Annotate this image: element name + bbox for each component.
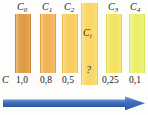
bar-top-label-c0: C0 bbox=[17, 1, 27, 12]
bar-value-label-c4: 0,1 bbox=[129, 75, 141, 85]
arrow-right-icon bbox=[3, 96, 145, 112]
bar-top-label-c1: C1 bbox=[42, 1, 52, 12]
bar-value-label-c2: 0,5 bbox=[62, 75, 74, 85]
bar-sheen bbox=[63, 14, 77, 73]
axis-symbol-c: C bbox=[2, 74, 9, 85]
bar-c2 bbox=[62, 14, 78, 73]
bar-inner-label-ci: Ci bbox=[83, 27, 92, 38]
bar-c3 bbox=[106, 14, 122, 73]
concentration-series-figure: C0 C1 C2 C3 C4 Ci ? C 1,0 0,8 0,5 0,25 0… bbox=[0, 0, 148, 115]
direction-arrow bbox=[3, 96, 145, 112]
bar-c0 bbox=[15, 14, 31, 73]
bar-sheen bbox=[16, 14, 30, 73]
bar-c1 bbox=[40, 14, 56, 73]
bar-c4 bbox=[129, 14, 145, 73]
bar-value-label-c1: 0,8 bbox=[40, 75, 52, 85]
bar-top-label-c3: C3 bbox=[108, 1, 118, 12]
bar-sheen bbox=[41, 14, 55, 73]
bar-sheen bbox=[107, 14, 121, 73]
bar-value-label-c3: 0,25 bbox=[102, 75, 119, 85]
bar-value-label-c0: 1,0 bbox=[16, 75, 28, 85]
bar-sheen bbox=[130, 14, 144, 73]
unknown-question-mark: ? bbox=[86, 64, 91, 75]
bar-top-label-c2: C2 bbox=[64, 1, 74, 12]
bar-top-label-c4: C4 bbox=[130, 1, 140, 12]
